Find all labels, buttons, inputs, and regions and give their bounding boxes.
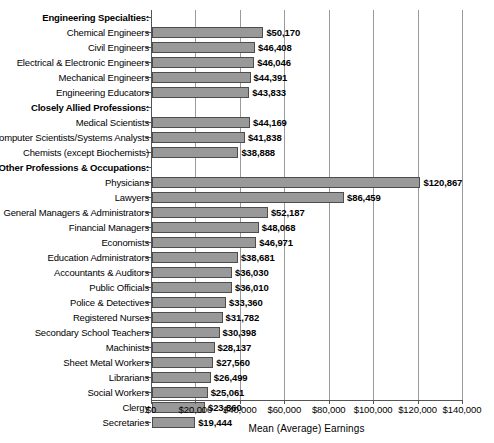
section-header-label: Closely Allied Professions: [31, 100, 149, 115]
chart-rows: Engineering Specialties:Chemical Enginee… [0, 10, 494, 430]
bar [152, 207, 268, 218]
bar-row: Registered Nurses$31,782 [0, 310, 494, 325]
bar-row: Accountants & Auditors$36,030 [0, 265, 494, 280]
bar-category-label: Chemical Engineers [67, 25, 149, 40]
bar-value-label: $36,010 [235, 280, 269, 295]
x-axis-tick-label: $0 [146, 404, 156, 415]
bar-category-label: Lawyers [115, 190, 149, 205]
bar-row: Medical Scientists$44,169 [0, 115, 494, 130]
bar-category-label: Education Administrators [48, 250, 149, 265]
x-axis-tick-label: $40,000 [223, 404, 257, 415]
bar-category-label: Librarians [109, 370, 149, 385]
x-axis-tick-labels: $0$20,000$40,000$60,000$80,000$100,000$1… [0, 404, 494, 418]
bar-category-label: Sheet Metal Workers [63, 355, 149, 370]
bar [152, 147, 238, 158]
bar-value-label: $46,971 [259, 235, 293, 250]
bar [152, 387, 208, 398]
bar [152, 117, 250, 128]
bar-value-label: $28,137 [218, 340, 252, 355]
bar-value-label: $41,838 [248, 130, 282, 145]
bar-category-label: Civil Engineers [88, 40, 149, 55]
bar-row: Lawyers$86,459 [0, 190, 494, 205]
bar-category-label: Financial Managers [69, 220, 149, 235]
bar [152, 342, 215, 353]
bar-row: Engineering Educators$43,833 [0, 85, 494, 100]
bar [152, 57, 254, 68]
bar-category-label: Public Officials [89, 280, 149, 295]
bar-row: Mechanical Engineers$44,391 [0, 70, 494, 85]
bar-row: Sheet Metal Workers$27,560 [0, 355, 494, 370]
bar-row: Secondary School Teachers$30,398 [0, 325, 494, 340]
bar-category-label: Physicians [105, 175, 149, 190]
bar-row: Computer Scientists/Systems Analysts$41,… [0, 130, 494, 145]
bar-value-label: $43,833 [252, 85, 286, 100]
bar-category-label: Machinists [106, 340, 149, 355]
x-axis-tick-label: $60,000 [267, 404, 301, 415]
bar-value-label: $120,867 [423, 175, 462, 190]
bar [152, 72, 251, 83]
bar-row: Physicians$120,867 [0, 175, 494, 190]
bar-row: Economists$46,971 [0, 235, 494, 250]
x-axis-tick-label: $100,000 [354, 404, 393, 415]
earnings-bar-chart: Engineering Specialties:Chemical Enginee… [0, 0, 494, 443]
bar [152, 132, 245, 143]
bar [152, 192, 344, 203]
x-axis-tick-label: $80,000 [312, 404, 346, 415]
bar-value-label: $27,560 [216, 355, 250, 370]
bar [152, 327, 220, 338]
bar [152, 282, 232, 293]
bar-row: General Managers & Administrators$52,187 [0, 205, 494, 220]
bar-category-label: Chemists (except Biochemists) [23, 145, 149, 160]
bar [152, 297, 226, 308]
bar-row: Chemical Engineers$50,170 [0, 25, 494, 40]
bar-value-label: $36,030 [235, 265, 269, 280]
bar-value-label: $52,187 [271, 205, 305, 220]
bar [152, 252, 238, 263]
bar-value-label: $38,681 [241, 250, 275, 265]
bar-value-label: $25,061 [211, 385, 245, 400]
bar-category-label: Registered Nurses [73, 310, 149, 325]
bar-row: Chemists (except Biochemists)$38,888 [0, 145, 494, 160]
bar-value-label: $50,170 [266, 25, 300, 40]
bar-category-label: Police & Detectives [70, 295, 149, 310]
bar [152, 177, 420, 188]
x-axis-tick-label: $20,000 [179, 404, 213, 415]
bar-row: Public Officials$36,010 [0, 280, 494, 295]
bar-category-label: Social Workers [87, 385, 149, 400]
bar-category-label: Accountants & Auditors [54, 265, 149, 280]
bar [152, 222, 259, 233]
bar-row: Librarians$26,499 [0, 370, 494, 385]
bar-value-label: $38,888 [241, 145, 275, 160]
bar-value-label: $46,408 [258, 40, 292, 55]
bar-category-label: Computer Scientists/Systems Analysts [0, 130, 149, 145]
section-header-row: Closely Allied Professions: [0, 100, 494, 115]
bar-value-label: $33,360 [229, 295, 263, 310]
bar-category-label: Electrical & Electronic Engineers [17, 55, 149, 70]
x-axis-title: Mean (Average) Earnings [151, 423, 462, 434]
bar-value-label: $30,398 [223, 325, 257, 340]
section-header-row: Other Professions & Occupations: [0, 160, 494, 175]
section-header-row: Engineering Specialties: [0, 10, 494, 25]
bar-category-label: Medical Scientists [76, 115, 149, 130]
bar-row: Education Administrators$38,681 [0, 250, 494, 265]
bar-row: Social Workers$25,061 [0, 385, 494, 400]
bar-value-label: $48,068 [262, 220, 296, 235]
bar [152, 357, 213, 368]
section-header-label: Other Professions & Occupations: [0, 160, 149, 175]
bar-category-label: Mechanical Engineers [59, 70, 149, 85]
bar-row: Machinists$28,137 [0, 340, 494, 355]
bar-value-label: $26,499 [214, 370, 248, 385]
bar-category-label: Secondary School Teachers [35, 325, 149, 340]
bar-category-label: Economists [101, 235, 149, 250]
bar-row: Police & Detectives$33,360 [0, 295, 494, 310]
section-header-label: Engineering Specialties: [42, 10, 149, 25]
bar [152, 42, 255, 53]
bar [152, 87, 249, 98]
bar-value-label: $86,459 [347, 190, 381, 205]
bar-category-label: Engineering Educators [56, 85, 149, 100]
bar [152, 267, 232, 278]
bar-category-label: General Managers & Administrators [3, 205, 149, 220]
bar [152, 237, 256, 248]
bar-row: Financial Managers$48,068 [0, 220, 494, 235]
bar-value-label: $46,046 [257, 55, 291, 70]
